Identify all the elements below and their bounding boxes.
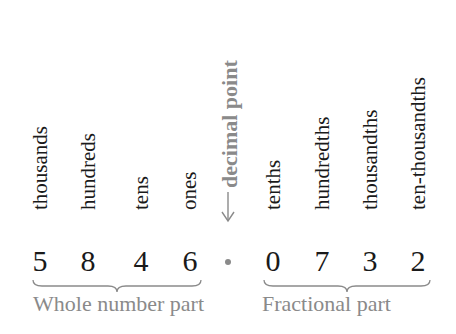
label-ten-thousandths: ten-thousandths — [408, 77, 429, 210]
label-thousandths: thousandths — [360, 110, 381, 210]
digit-hundredths: 7 — [307, 246, 337, 276]
label-hundreds: hundreds — [78, 133, 99, 210]
label-hundredths: hundredths — [312, 117, 333, 210]
label-ones: ones — [179, 172, 200, 211]
digit-thousands: 5 — [25, 246, 55, 276]
fractional-part-label: Fractional part — [262, 293, 391, 315]
digit-tenths: 0 — [258, 246, 288, 276]
down-arrow-icon — [219, 192, 237, 224]
digit-hundreds: 8 — [73, 246, 103, 276]
label-decimal-point: decimal point — [219, 60, 241, 188]
label-tens: tens — [131, 176, 152, 210]
label-thousands: thousands — [30, 126, 51, 210]
label-tenths: tenths — [263, 160, 284, 210]
decimal-point-dot — [225, 259, 231, 265]
whole-number-part-label: Whole number part — [33, 293, 204, 315]
digit-tens: 4 — [126, 246, 156, 276]
digit-ten-thousandths: 2 — [403, 246, 433, 276]
digit-ones: 6 — [175, 246, 205, 276]
digit-thousandths: 3 — [355, 246, 385, 276]
